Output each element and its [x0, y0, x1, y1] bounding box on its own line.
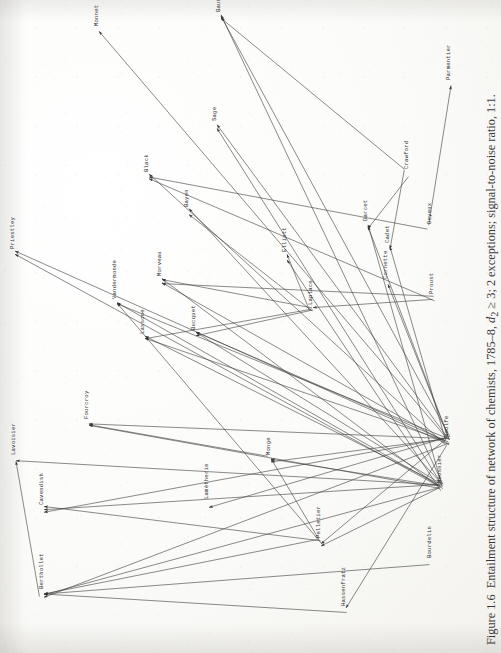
graph-node-label-meusnier: Meusnier	[436, 455, 443, 483]
graph-node-label-priestley: Priestley	[9, 217, 16, 249]
graph-edge	[221, 15, 443, 485]
graph-node-label-deyeux: Deyeux	[426, 203, 433, 224]
graph-node-label-proust: Proust	[428, 273, 435, 294]
graph-edge	[162, 280, 312, 308]
graph-edge	[44, 443, 449, 597]
graph-node-label-crawford: Crawford	[403, 141, 410, 169]
graph-node-label-berthollet: Berthollet	[38, 553, 45, 589]
graph-edge	[44, 485, 439, 510]
graph-edge	[390, 170, 404, 249]
graph-node-label-monge: Monge	[265, 437, 272, 455]
graph-edge	[217, 125, 449, 440]
graph-edge	[209, 438, 447, 508]
graph-edge-layer	[15, 15, 451, 613]
graph-edge	[44, 540, 318, 595]
caption-tail-text: 2 exceptions; signal-to-noise ratio, 1:1…	[484, 94, 498, 289]
graph-node-label-darcet: Darcet	[362, 200, 369, 221]
graph-edge	[99, 31, 448, 439]
graph-edge	[221, 18, 404, 169]
graph-edge	[44, 594, 347, 613]
graph-node-label-bourdelin: Bourdelin	[426, 526, 433, 558]
graph-edge	[390, 247, 445, 439]
graph-node-label-bayen: Bayen	[183, 189, 190, 207]
graph-edge	[162, 284, 434, 297]
figure-caption-area: Figure 1.6 Entailment structure of netwo…	[466, 0, 501, 653]
graph-node-label-vandermonde: Vandermonde	[111, 260, 118, 299]
graph-edge	[321, 488, 440, 547]
graph-edge	[16, 461, 39, 596]
caption-math-subscript: 2	[489, 312, 500, 317]
figure-caption: Figure 1.6 Entailment structure of netwo…	[484, 5, 500, 645]
graph-edge	[271, 459, 442, 486]
graph-edge	[162, 279, 437, 486]
graph-node-label-cadet: Cadet	[384, 225, 391, 243]
entailment-graph	[0, 0, 470, 640]
graph-node-label-laplace: Laplace	[307, 280, 314, 305]
graph-node-label-parmentier: Parmentier	[445, 44, 452, 80]
graph-node-label-lametherie: Lamétherie	[203, 463, 210, 499]
graph-node-label-morveau: Morveau	[156, 251, 163, 276]
caption-math-d: d	[484, 317, 498, 323]
graph-node-label-lassone: Lassone	[139, 309, 146, 334]
graph-node-label-cavendish: Cavendish	[38, 473, 45, 505]
figure-number: Figure 1.6	[484, 594, 498, 645]
graph-edge	[313, 299, 433, 307]
graph-node-label-lavoisier: Lavoisier	[10, 423, 17, 455]
graph-edge	[44, 507, 321, 541]
graph-node-label-black: Black	[143, 154, 150, 172]
graph-edge	[44, 438, 447, 512]
graph-edge	[271, 439, 444, 462]
caption-math-relation: ≥ 3;	[484, 289, 498, 311]
graph-node-label-bucquet: Bucquet	[190, 305, 197, 330]
graph-node-label-cornette: Cornette	[382, 251, 389, 279]
graph-node-label-elliott: Elliott	[281, 227, 288, 252]
graph-edge	[271, 459, 319, 540]
graph-edge	[145, 338, 448, 442]
graph-edge	[368, 227, 450, 440]
figure-graph-area: MonnetBauméSageBlackBayenPriestleyMorvea…	[0, 0, 470, 640]
graph-edge	[89, 425, 267, 456]
figure-caption-text: Entailment structure of network of chemi…	[484, 326, 498, 588]
graph-edge	[117, 304, 447, 439]
graph-edge	[368, 177, 409, 229]
graph-node-label-hassenfratz: Hassenfratz	[340, 567, 347, 606]
graph-node-label-baume: Baumé	[215, 0, 222, 12]
graph-node-label-pelletier: Pelletier	[315, 506, 322, 538]
graph-edge	[145, 309, 312, 339]
graph-node-label-woulfe: Woulfe	[443, 416, 450, 437]
graph-edge	[89, 425, 439, 488]
graph-node-label-fourcroy: Fourcroy	[83, 391, 90, 419]
graph-edge	[196, 310, 313, 336]
graph-node-label-sage: Sage	[211, 107, 218, 121]
graph-edge	[16, 461, 442, 485]
graph-node-label-monnet: Monnet	[93, 5, 100, 26]
graph-edge	[388, 284, 449, 438]
